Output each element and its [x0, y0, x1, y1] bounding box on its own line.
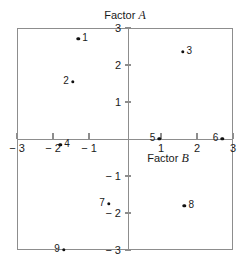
- y-axis-title-text: Factor: [104, 9, 138, 21]
- x-axis-line: [17, 139, 233, 140]
- x-axis-tick: [88, 133, 89, 139]
- data-point-label: 5: [150, 133, 156, 143]
- y-axis-tick: [125, 212, 131, 213]
- y-axis-tick-label: − 3: [99, 245, 121, 256]
- y-axis-tick: [125, 101, 131, 102]
- y-axis-tick-label: − 2: [99, 208, 121, 219]
- x-axis-tick-label: − 1: [81, 143, 97, 154]
- y-axis-tick: [125, 249, 131, 250]
- x-axis-tick: [232, 133, 233, 139]
- data-point-label: 6: [213, 133, 219, 143]
- data-point-label: 3: [187, 46, 193, 56]
- x-axis-tick: [196, 133, 197, 139]
- x-axis-tick-label: 3: [230, 143, 236, 154]
- y-axis-tick-label: 3: [99, 23, 121, 34]
- data-point-label: 4: [64, 139, 70, 149]
- data-point-label: 9: [54, 244, 60, 254]
- x-axis-title: Factor B: [147, 152, 189, 164]
- x-axis-tick: [160, 133, 161, 139]
- scatter-plot-figure: − 3− 2− 1123− 3− 2− 1123 Factor A Factor…: [0, 0, 250, 265]
- y-axis-tick-label: − 1: [99, 171, 121, 182]
- data-point-label: 8: [188, 200, 194, 210]
- y-axis-tick: [125, 64, 131, 65]
- x-axis-tick-label: − 3: [9, 143, 25, 154]
- data-point-label: 1: [82, 33, 88, 43]
- y-axis-tick-label: 1: [99, 97, 121, 108]
- data-point-label: 7: [99, 198, 105, 208]
- x-axis-tick: [16, 133, 17, 139]
- y-axis-tick: [125, 27, 131, 28]
- y-axis-tick-label: 2: [99, 60, 121, 71]
- x-axis-tick-label: 2: [194, 143, 200, 154]
- x-axis-title-text: Factor: [147, 152, 181, 164]
- y-axis-title-symbol: A: [138, 8, 145, 22]
- x-axis-title-symbol: B: [181, 151, 188, 165]
- y-axis-title: Factor A: [104, 9, 146, 21]
- y-axis-tick: [125, 175, 131, 176]
- x-axis-tick: [52, 133, 53, 139]
- data-point: [62, 248, 65, 251]
- data-point-label: 2: [63, 76, 69, 86]
